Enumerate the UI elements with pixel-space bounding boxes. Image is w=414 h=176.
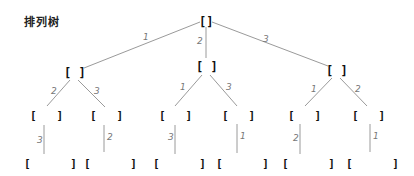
svg-text:1: 1 <box>373 131 379 141</box>
svg-text:[ ]: [ ] <box>216 157 269 170</box>
svg-text:1: 1 <box>180 82 186 92</box>
svg-text:[ ]: [ ] <box>30 109 63 122</box>
svg-text:1: 1 <box>311 84 317 94</box>
svg-text:[ ]: [ ] <box>222 109 255 122</box>
svg-text:2: 2 <box>293 133 299 143</box>
svg-text:3: 3 <box>226 82 232 92</box>
svg-text:2: 2 <box>355 84 361 94</box>
permutation-tree: 1 2 3 2 3 1 3 1 2 3 2 3 1 2 1 [] <box>0 0 414 176</box>
nodes-level3: [ ] [ ] [ ] [ ] [ ] [ ] <box>24 157 399 170</box>
svg-text:2: 2 <box>197 36 203 46</box>
node-label: [] <box>199 15 213 29</box>
svg-text:2: 2 <box>51 86 57 96</box>
svg-text:1: 1 <box>143 32 149 42</box>
svg-text:[ ]: [ ] <box>326 64 348 78</box>
svg-text:3: 3 <box>94 86 100 96</box>
node-root: [] <box>199 15 213 29</box>
svg-text:[ ]: [ ] <box>282 157 335 170</box>
nodes-level2: [ ] [ ] [ ] [ ] [ ] [ ] <box>30 109 385 122</box>
svg-text:[ ]: [ ] <box>288 109 321 122</box>
svg-text:[ ]: [ ] <box>159 109 192 122</box>
edges-level3 <box>44 124 370 154</box>
edge-labels-level2: 2 3 1 3 1 2 <box>51 82 361 96</box>
svg-text:3: 3 <box>168 132 174 142</box>
svg-text:[ ]: [ ] <box>346 157 399 170</box>
svg-text:[ ]: [ ] <box>352 109 385 122</box>
svg-text:[ ]: [ ] <box>24 157 77 170</box>
svg-text:3: 3 <box>37 135 43 145</box>
svg-text:[ ]: [ ] <box>64 66 86 80</box>
svg-text:[ ]: [ ] <box>196 60 218 74</box>
svg-text:[ ]: [ ] <box>90 109 123 122</box>
svg-text:[ ]: [ ] <box>84 157 137 170</box>
nodes-level1: [ ] [ ] [ ] <box>64 60 348 80</box>
svg-text:1: 1 <box>240 131 246 141</box>
svg-text:3: 3 <box>263 34 269 44</box>
edge-labels-level3: 3 2 3 1 2 1 <box>37 131 379 145</box>
svg-text:[ ]: [ ] <box>153 157 206 170</box>
svg-text:2: 2 <box>107 132 113 142</box>
